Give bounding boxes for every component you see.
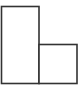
short-square [39,45,77,84]
tall-rectangle [2,7,40,84]
diagram-canvas [0,0,83,89]
